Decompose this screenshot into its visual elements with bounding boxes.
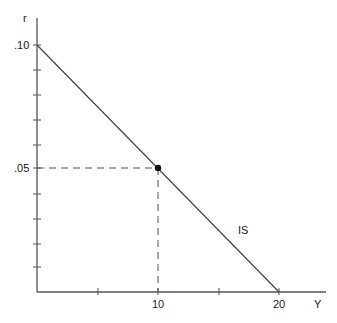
curve-label: IS bbox=[238, 224, 248, 236]
equilibrium-point bbox=[155, 165, 161, 171]
y-axis-label: r bbox=[23, 12, 27, 24]
y-tick-label-top: .10 bbox=[14, 39, 29, 51]
x-tick-label-mid: 10 bbox=[152, 298, 164, 310]
x-tick-label-end: 20 bbox=[273, 298, 285, 310]
is-curve-chart: r .10 .05 10 20 Y IS bbox=[0, 0, 337, 323]
x-axis-label: Y bbox=[314, 298, 322, 310]
y-tick-label-mid: .05 bbox=[14, 162, 29, 174]
